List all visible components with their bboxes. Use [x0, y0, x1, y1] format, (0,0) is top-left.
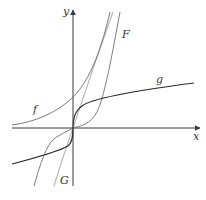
- curve-G: [54, 12, 113, 186]
- curve-F: [34, 12, 120, 186]
- x-axis-label: x: [193, 130, 200, 143]
- y-axis-label: y: [62, 5, 70, 18]
- curve-f: [12, 12, 110, 125]
- label-G: G: [60, 174, 69, 187]
- label-f: f: [32, 103, 39, 116]
- label-F: F: [121, 28, 130, 41]
- label-g: g: [156, 73, 163, 86]
- function-graph: x y f g F G: [0, 0, 206, 200]
